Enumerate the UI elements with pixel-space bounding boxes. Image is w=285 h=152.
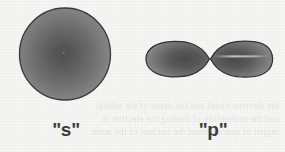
p-orbital-graphic xyxy=(146,41,273,77)
p-orbital-highlight-streak xyxy=(214,55,269,57)
p-orbital-left-lobe xyxy=(146,41,210,76)
s-orbital-nucleus-dot xyxy=(62,52,64,54)
orbital-diagram-figure: the electron cloud and the shape of the … xyxy=(0,0,285,152)
p-orbital-label: "p" xyxy=(172,119,254,141)
p-orbital-highlight-streak-secondary xyxy=(214,57,264,58)
p-orbital-right-lobe xyxy=(211,41,273,77)
s-orbital-graphic xyxy=(20,8,111,100)
s-orbital-label: "s" xyxy=(25,119,107,141)
s-orbital-sphere xyxy=(20,8,111,100)
